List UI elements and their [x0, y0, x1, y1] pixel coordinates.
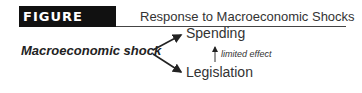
- arrow-shock-to-legislation: [153, 54, 181, 72]
- arrows-layer: [0, 0, 362, 93]
- arrow-shock-to-spending: [153, 35, 181, 50]
